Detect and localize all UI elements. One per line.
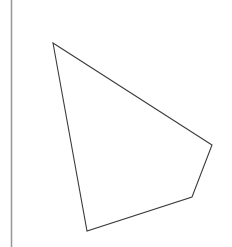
quadrilateral-shape [53, 43, 212, 231]
figure-canvas [0, 0, 232, 247]
figure-svg [0, 0, 232, 247]
